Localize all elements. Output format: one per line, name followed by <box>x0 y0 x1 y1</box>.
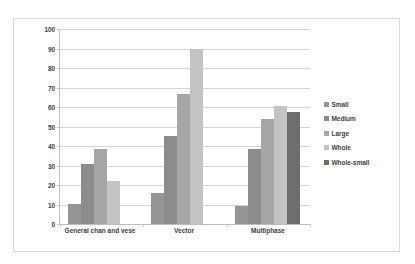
bar <box>190 49 203 225</box>
y-tick-label: 100 <box>44 26 55 33</box>
plot-area: 0102030405060708090100 <box>60 29 310 224</box>
legend-swatch-icon <box>324 145 329 150</box>
y-tick-label: 80 <box>48 65 55 72</box>
legend-item[interactable]: Small <box>324 97 400 112</box>
bar-groups <box>60 29 310 224</box>
bar <box>94 149 107 224</box>
legend-item[interactable]: Large <box>324 126 400 141</box>
legend-label: Whole <box>332 144 351 151</box>
bar-group <box>143 29 226 224</box>
legend-label: Small <box>332 101 349 108</box>
x-axis-category-label: General chan and vese <box>60 227 142 236</box>
legend-label: Whole-small <box>332 159 370 166</box>
bar-group <box>60 29 143 224</box>
bar <box>81 164 94 224</box>
legend-swatch-icon <box>324 160 329 165</box>
bar <box>164 136 177 224</box>
bar <box>274 106 287 224</box>
legend-label: Medium <box>332 115 356 122</box>
x-axis-category-label: Vector <box>142 227 226 236</box>
legend-swatch-icon <box>324 131 329 136</box>
bar <box>248 149 261 224</box>
gridline <box>60 224 310 225</box>
y-tick-label: 10 <box>48 201 55 208</box>
bar <box>235 206 248 224</box>
legend-item[interactable]: Medium <box>324 112 400 127</box>
legend-swatch-icon <box>324 116 329 121</box>
legend-item[interactable]: Whole <box>324 141 400 156</box>
y-tick-label: 30 <box>48 162 55 169</box>
bar <box>107 181 120 224</box>
legend-swatch-icon <box>324 102 329 107</box>
legend-item[interactable]: Whole-small <box>324 155 400 170</box>
bar <box>68 204 81 224</box>
y-tick-label: 70 <box>48 84 55 91</box>
chart-legend: SmallMediumLargeWholeWhole-small <box>324 97 400 170</box>
y-tick-label: 60 <box>48 104 55 111</box>
chart-container: 0102030405060708090100 General chan and … <box>13 18 400 252</box>
legend-label: Large <box>332 130 349 137</box>
bar <box>287 112 300 224</box>
y-tick-label: 20 <box>48 182 55 189</box>
x-tick-mark <box>310 224 311 227</box>
y-tick-label: 90 <box>48 45 55 52</box>
bar <box>261 119 274 224</box>
x-axis-category-labels: General chan and veseVectorMultiphase <box>60 227 310 236</box>
bar-group <box>227 29 310 224</box>
y-tick-label: 50 <box>48 123 55 130</box>
x-axis-category-label: Multiphase <box>226 227 310 236</box>
bar <box>151 193 164 224</box>
y-tick-label: 40 <box>48 143 55 150</box>
y-tick-label: 0 <box>51 221 55 228</box>
bar <box>177 94 190 224</box>
